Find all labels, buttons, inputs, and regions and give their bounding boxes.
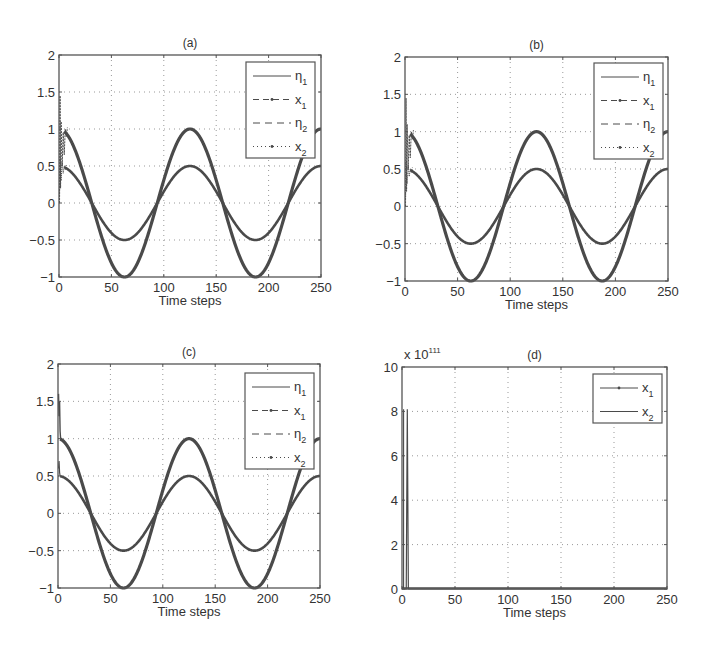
subplot-d: 0501001502002501086420(d)Time stepsx 101… <box>384 346 678 620</box>
y-tick-label: 1 <box>48 122 55 137</box>
y-tick-label: 1.5 <box>37 85 55 100</box>
x-tick-label: 0 <box>54 591 61 606</box>
y-tick-label: 0.5 <box>383 162 401 177</box>
y-tick-label: 1.5 <box>383 87 401 102</box>
legend: η1x1η2x2 <box>246 62 315 158</box>
y-tick-label: 0.5 <box>37 159 55 174</box>
y-tick-label: 0 <box>394 199 401 214</box>
x-tick-label: 250 <box>309 591 331 606</box>
y-tick-label: −0.5 <box>28 544 54 559</box>
y-multiplier: x 10111 <box>404 346 441 362</box>
x-axis-label: Time steps <box>157 604 221 619</box>
figure: 05010015020025021.510.50−0.5−1(a)Time st… <box>0 0 712 655</box>
y-tick-label: 0 <box>391 582 398 597</box>
x-tick-label: 200 <box>603 592 625 607</box>
legend: η1x1η2x2 <box>245 373 314 469</box>
y-tick-label: 0 <box>48 196 55 211</box>
y-tick-label: 2 <box>48 48 55 63</box>
x-tick-label: 200 <box>605 284 627 299</box>
x-tick-label: 50 <box>448 592 462 607</box>
x-tick-label: 250 <box>310 280 332 295</box>
y-tick-label: −1 <box>386 274 401 289</box>
x-tick-label: 0 <box>398 592 405 607</box>
y-tick-label: 1 <box>394 125 401 140</box>
x-axis-label: Time steps <box>503 605 567 620</box>
y-tick-label: −1 <box>40 270 55 285</box>
y-tick-label: −1 <box>39 581 54 596</box>
y-tick-label: 2 <box>47 357 54 372</box>
subplot-title: (d) <box>527 348 542 362</box>
subplot-title: (a) <box>183 36 198 50</box>
x-tick-label: 0 <box>55 280 62 295</box>
y-tick-label: 6 <box>391 449 398 464</box>
x-axis-label: Time steps <box>158 293 222 308</box>
subplot-title: (c) <box>182 345 196 359</box>
y-tick-label: 0.5 <box>36 469 54 484</box>
subplot-title: (b) <box>529 38 544 52</box>
y-tick-label: −0.5 <box>375 237 401 252</box>
y-tick-label: 0 <box>47 506 54 521</box>
x-tick-label: 0 <box>401 284 408 299</box>
subplot-b: 05010015020025021.510.50−0.5−1(b)Time st… <box>375 38 679 312</box>
subplot-c: 05010015020025021.510.50−0.5−1(c)Time st… <box>28 345 331 619</box>
x-tick-label: 250 <box>656 592 678 607</box>
x-tick-label: 50 <box>450 284 464 299</box>
y-tick-label: 2 <box>391 538 398 553</box>
x-tick-label: 200 <box>257 591 279 606</box>
x-tick-label: 50 <box>104 280 118 295</box>
x-tick-label: 250 <box>657 284 679 299</box>
x-tick-label: 50 <box>103 591 117 606</box>
x-axis-label: Time steps <box>505 297 569 312</box>
y-tick-label: 4 <box>391 493 398 508</box>
legend: x1x2 <box>593 374 662 423</box>
y-tick-label: 10 <box>384 360 398 375</box>
y-tick-label: 1.5 <box>36 394 54 409</box>
y-tick-label: 8 <box>391 404 398 419</box>
y-tick-label: 1 <box>47 432 54 447</box>
legend: η1x1η2x2 <box>594 63 663 159</box>
y-tick-label: −0.5 <box>29 233 55 248</box>
subplot-a: 05010015020025021.510.50−0.5−1(a)Time st… <box>29 36 332 308</box>
y-tick-label: 2 <box>394 50 401 65</box>
x-tick-label: 200 <box>258 280 280 295</box>
